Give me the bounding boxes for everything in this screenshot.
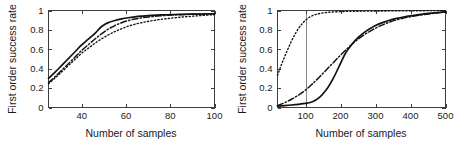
left-y-tick-labels: 00.20.40.60.81 bbox=[30, 5, 43, 113]
left-x-tick-labels: 406080100 bbox=[76, 110, 222, 121]
right-x-axis-label: Number of samples bbox=[315, 127, 406, 139]
chart-panel-right: 100200300400500 00.20.40.60.81 Number of… bbox=[235, 0, 469, 143]
y-tick-label: 0.6 bbox=[30, 44, 43, 55]
right-x-tick-labels: 100200300400500 bbox=[298, 110, 454, 121]
right-tick-marks bbox=[278, 11, 447, 109]
y-tick-label: 0.4 bbox=[259, 63, 272, 74]
curve-solid bbox=[49, 14, 215, 79]
right-curves bbox=[278, 11, 446, 106]
right-y-axis-label: First order success rate bbox=[236, 4, 248, 114]
x-tick-label: 60 bbox=[121, 110, 132, 121]
left-x-axis-label: Number of samples bbox=[85, 127, 176, 139]
y-tick-label: 0 bbox=[38, 102, 43, 113]
y-tick-label: 0.2 bbox=[259, 82, 272, 93]
y-tick-label: 0.8 bbox=[259, 24, 272, 35]
x-tick-label: 80 bbox=[165, 110, 176, 121]
y-tick-label: 0 bbox=[267, 102, 272, 113]
y-tick-label: 0.4 bbox=[30, 63, 43, 74]
figure-panel-pair: 406080100 00.20.40.60.81 Number of sampl… bbox=[0, 0, 469, 143]
left-curves bbox=[49, 14, 215, 84]
x-tick-label: 40 bbox=[76, 110, 87, 121]
x-tick-label: 100 bbox=[207, 110, 223, 121]
x-tick-label: 300 bbox=[368, 110, 384, 121]
chart-left-svg: 406080100 00.20.40.60.81 Number of sampl… bbox=[0, 0, 235, 143]
x-tick-label: 400 bbox=[403, 110, 419, 121]
y-tick-label: 0.2 bbox=[30, 82, 43, 93]
chart-right-svg: 100200300400500 00.20.40.60.81 Number of… bbox=[235, 0, 469, 143]
y-tick-label: 0.8 bbox=[30, 24, 43, 35]
curve-dotted bbox=[49, 15, 215, 84]
curve-dash-dot bbox=[278, 12, 446, 106]
y-tick-label: 1 bbox=[38, 5, 43, 16]
x-tick-label: 200 bbox=[333, 110, 349, 121]
y-tick-label: 0.6 bbox=[259, 44, 272, 55]
y-tick-label: 1 bbox=[267, 5, 272, 16]
x-tick-label: 100 bbox=[298, 110, 314, 121]
chart-panel-left: 406080100 00.20.40.60.81 Number of sampl… bbox=[0, 0, 235, 143]
right-y-tick-labels: 00.20.40.60.81 bbox=[259, 5, 272, 113]
left-y-axis-label: First order success rate bbox=[6, 4, 18, 114]
curve-dash-dot bbox=[49, 14, 215, 83]
curve-dotted bbox=[278, 11, 446, 76]
x-tick-label: 500 bbox=[438, 110, 454, 121]
